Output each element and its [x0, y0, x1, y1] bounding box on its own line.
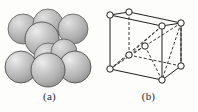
atom-back-bottom-left — [126, 52, 132, 58]
edge-front-bottom-left-to-front-bottom-right — [110, 69, 162, 80]
atom-back-top-left — [126, 9, 132, 15]
edge-back-top-left-to-back-top-right — [129, 12, 181, 23]
bond-front-top-right-to-front-bottom-left — [110, 26, 162, 69]
edge-back-bottom-left-to-back-bottom-right — [129, 55, 181, 66]
unit-cell-svg — [99, 0, 198, 92]
sphere-front-bottom-center — [31, 53, 65, 87]
bond-center-to-front-bottom-right — [145, 46, 162, 80]
atom-front-top-left — [107, 12, 113, 18]
atom-back-bottom-right — [178, 63, 184, 69]
edge-front-top-left-to-front-top-right — [110, 15, 162, 26]
atom-body-center — [142, 43, 148, 49]
atom-front-bottom-right — [159, 77, 165, 83]
panel-a-caption: (a) — [0, 90, 99, 102]
hard-sphere-illustration — [0, 0, 99, 92]
atom-back-top-right — [178, 20, 184, 26]
atom-front-top-right — [159, 23, 165, 29]
atom-front-bottom-left — [107, 66, 113, 72]
unit-cell-illustration — [99, 0, 198, 92]
sphere-layer-front — [5, 51, 91, 87]
hard-sphere-svg — [0, 0, 99, 92]
figure-root: (a) — [0, 0, 198, 112]
panel-unit-cell-wireframe: (b) — [99, 0, 198, 112]
panel-hard-sphere-model: (a) — [0, 0, 99, 112]
bond-back-top-right-to-front-bottom-right — [162, 23, 181, 80]
panel-b-caption: (b) — [99, 90, 198, 102]
